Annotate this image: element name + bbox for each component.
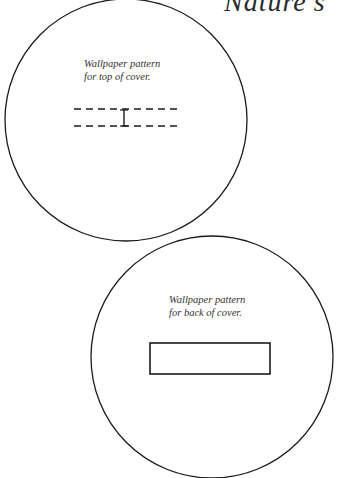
- back-cover-label-line2: for back of cover.: [169, 306, 245, 319]
- back-cover-label-line1: Wallpaper pattern: [169, 293, 245, 306]
- back-cover-circle: [91, 236, 333, 478]
- top-cover-label-line1: Wallpaper pattern: [84, 57, 160, 70]
- pattern-artwork: [0, 0, 337, 478]
- top-cover-circle: [5, 0, 247, 241]
- back-cover-slot-rect: [150, 343, 270, 374]
- top-cover-slot-dashes: [74, 109, 181, 126]
- top-cover-label-line2: for top of cover.: [84, 70, 160, 83]
- back-cover-label: Wallpaper pattern for back of cover.: [169, 293, 245, 319]
- top-cover-label: Wallpaper pattern for top of cover.: [84, 57, 160, 83]
